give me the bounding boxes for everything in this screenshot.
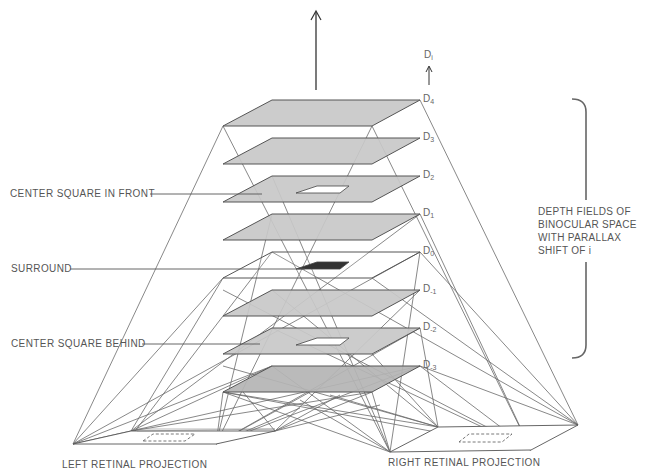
plane-label--2: D-2 [423, 322, 436, 333]
plane-label-3: D3 [423, 132, 434, 143]
left-retina [73, 429, 275, 444]
depth-plane--2 [223, 328, 420, 354]
surround-label: SURROUND [11, 264, 72, 274]
plane-label--1: D-1 [423, 284, 436, 295]
plane-label-1: D1 [423, 208, 434, 219]
plane-label-4: D4 [423, 94, 434, 105]
caption-line-4: SHIFT OF i [538, 244, 637, 257]
depth-plane-2 [223, 176, 420, 202]
axis-sub: i [431, 54, 433, 61]
center-square-behind-label: CENTER SQUARE BEHIND [11, 339, 146, 349]
depth-axis-label: Di [424, 50, 433, 61]
plane-label--3: D-3 [423, 360, 436, 371]
right-retinal-projection-label: RIGHT RETINAL PROJECTION [388, 458, 540, 468]
depth-planes [223, 100, 420, 392]
depth-plane-0 [223, 252, 420, 278]
depth-plane-3 [223, 138, 420, 164]
depth-axis-arrow-icon [426, 66, 432, 85]
caption-line-2: BINOCULAR SPACE [538, 218, 637, 231]
main-arrow-icon [311, 11, 321, 90]
caption-line-3: WITH PARALLAX [538, 231, 637, 244]
depth-fields-caption: DEPTH FIELDS OF BINOCULAR SPACE WITH PAR… [538, 205, 637, 257]
left-retinal-projection-label: LEFT RETINAL PROJECTION [62, 460, 207, 470]
center-square-in-front-label: CENTER SQUARE IN FRONT [10, 189, 155, 199]
plane-label-2: D2 [423, 170, 434, 181]
plane-label-0: D0 [423, 246, 434, 257]
depth-plane-4 [223, 100, 420, 126]
caption-line-1: DEPTH FIELDS OF [538, 205, 637, 218]
